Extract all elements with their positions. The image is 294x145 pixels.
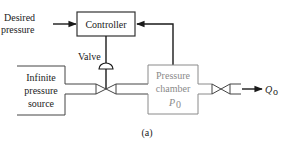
controller-block: Controller: [77, 12, 135, 36]
svg-text:o: o: [273, 86, 278, 97]
pressure-chamber-block: Pressure chamber P 0: [148, 65, 198, 114]
svg-text:Infinite: Infinite: [26, 72, 56, 83]
pressure-control-diagram: Desired pressure Controller Valve Infini…: [0, 0, 294, 145]
svg-text:0: 0: [176, 99, 181, 110]
svg-text:Controller: Controller: [85, 19, 127, 30]
desired-pressure-label: Desired pressure: [1, 12, 35, 35]
svg-text:chamber: chamber: [156, 83, 191, 94]
outflow-label: Q o: [265, 84, 278, 97]
outlet-valve-icon: [212, 84, 230, 94]
svg-text:pressure: pressure: [1, 24, 35, 35]
svg-text:Q: Q: [265, 84, 273, 95]
source-block: Infinite pressure source: [17, 66, 96, 115]
svg-text:Desired: Desired: [4, 12, 35, 23]
svg-text:P: P: [168, 97, 175, 108]
valve-label: Valve: [78, 51, 101, 62]
figure-caption: (a): [141, 127, 152, 139]
feedback-arrow: [137, 24, 173, 65]
svg-text:Pressure: Pressure: [156, 70, 190, 81]
svg-text:pressure: pressure: [24, 85, 58, 96]
svg-text:source: source: [28, 98, 55, 109]
valve-actuator-icon: [99, 63, 113, 69]
